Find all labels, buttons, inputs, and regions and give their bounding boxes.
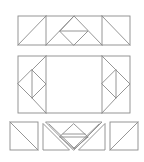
bottom-row (10, 122, 138, 150)
top-right-diagonal (102, 16, 130, 45)
top-row-outline (18, 16, 130, 45)
middle-right-diag-bottom (102, 98, 116, 113)
diagram-svg (0, 0, 144, 162)
middle-left-diag-top (32, 56, 46, 70)
dissection-diagram (0, 0, 144, 162)
middle-left-diag-bottom (32, 98, 46, 113)
top-row (18, 16, 130, 45)
bottom-left-square-diagonal (10, 122, 38, 150)
top-left-diagonal (18, 16, 46, 45)
middle-right-diag-top (102, 56, 116, 70)
top-inner-edge-left (60, 16, 74, 31)
top-center-inner-triangle (60, 31, 88, 45)
middle-row (18, 56, 130, 113)
middle-row-outline (18, 56, 130, 113)
top-center-triangle (46, 16, 102, 45)
bottom-right-square-diagonal (110, 122, 138, 150)
